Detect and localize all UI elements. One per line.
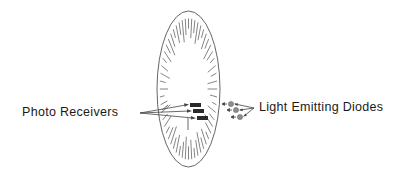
radial-tick [202, 30, 204, 38]
radial-ticks [160, 19, 217, 159]
radial-tick [161, 73, 170, 78]
radial-tick [171, 34, 175, 46]
radial-tick [208, 106, 215, 112]
radial-tick [208, 66, 215, 72]
radial-tick [194, 21, 195, 33]
light-emitting-diodes-label: Light Emitting Diodes [259, 100, 383, 114]
radial-tick [185, 137, 186, 159]
radial-tick [169, 39, 175, 54]
radial-tick [179, 146, 180, 155]
radial-tick [201, 138, 204, 149]
radial-tick [162, 66, 168, 71]
radial-tick [194, 148, 195, 157]
radial-tick [210, 114, 215, 120]
radial-tick [179, 23, 181, 35]
photo-receivers-label: Photo Receivers [22, 105, 118, 119]
radial-tick [211, 59, 214, 63]
radial-tick [161, 101, 167, 105]
radial-tick [169, 128, 173, 139]
radial-tick [205, 39, 209, 48]
radial-tick [206, 132, 209, 139]
radial-tick [176, 135, 179, 152]
radial-tick [166, 45, 170, 53]
photo-receiver-2 [193, 109, 204, 113]
radial-tick [165, 116, 171, 126]
radial-tick [173, 138, 176, 149]
optical-disk-diagram [0, 0, 413, 180]
radial-tick [210, 95, 216, 97]
photo-receiver-3 [197, 116, 208, 120]
receiver-pointer-arrows [140, 105, 193, 130]
radial-tick [173, 30, 175, 38]
radial-tick [191, 19, 192, 38]
radial-tick [195, 23, 198, 44]
radial-tick [207, 52, 212, 60]
radial-tick [185, 19, 186, 35]
radial-tick [208, 81, 217, 84]
radial-tick [160, 81, 165, 82]
radial-tick [213, 103, 217, 105]
led-1 [228, 101, 233, 106]
radial-tick [196, 141, 198, 156]
radial-tick [165, 52, 171, 62]
photo-receiver-1 [190, 103, 201, 107]
radial-tick [211, 73, 216, 76]
radial-tick [163, 114, 168, 120]
radial-tick [182, 142, 183, 157]
radial-tick [166, 127, 169, 133]
led-2 [233, 107, 238, 112]
radial-tick [191, 140, 192, 159]
radial-tick [176, 26, 179, 43]
radial-tick [182, 21, 184, 42]
radial-tick [197, 133, 201, 153]
radial-tick [160, 96, 164, 97]
led-3 [237, 114, 242, 119]
radial-tick [163, 59, 166, 63]
radial-tick [206, 123, 211, 133]
radial-tick [198, 26, 201, 40]
